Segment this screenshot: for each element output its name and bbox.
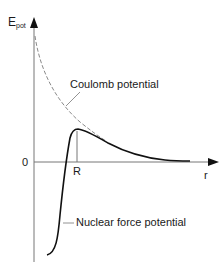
x-axis-arrow-icon xyxy=(208,158,219,166)
coulomb-label: Coulomb potential xyxy=(70,79,159,90)
x-axis-label: r xyxy=(204,170,208,181)
coulomb-leader-line xyxy=(66,92,80,106)
nuclear-curve xyxy=(47,129,190,255)
y-axis-label-sub: pot xyxy=(16,22,26,29)
y-axis-arrow-icon xyxy=(30,17,38,28)
r-marker-label: R xyxy=(73,166,81,177)
y-axis-label-main: E xyxy=(8,15,16,29)
potential-diagram xyxy=(0,0,224,269)
nuclear-label: Nuclear force potential xyxy=(76,217,186,228)
y-axis-label: Epot xyxy=(8,16,26,29)
zero-label: 0 xyxy=(22,157,28,168)
